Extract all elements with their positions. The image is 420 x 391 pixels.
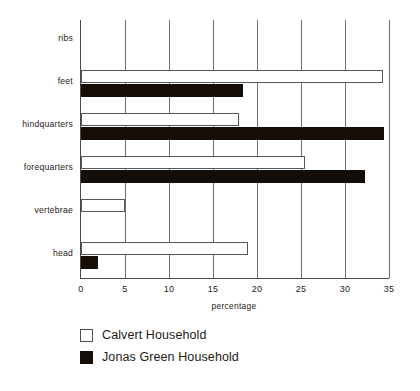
x-tick-label: 0	[78, 284, 83, 294]
category-label-feet: feet	[58, 76, 73, 86]
x-tick-label: 5	[122, 284, 127, 294]
bar-hindquarters-jonas-green	[81, 127, 384, 140]
x-axis-title: percentage	[80, 301, 388, 311]
x-tick-label: 15	[208, 284, 219, 294]
bar-head-jonas-green	[81, 256, 98, 269]
bar-feet-calvert	[81, 70, 383, 83]
chart-legend: Calvert Household Jonas Green Household	[80, 324, 239, 368]
category-row: ribs	[81, 20, 389, 63]
bar-forequarters-jonas-green	[81, 170, 365, 183]
bar-vertebrae-calvert	[81, 199, 125, 212]
bar-head-calvert	[81, 242, 248, 255]
x-tick-label: 25	[296, 284, 307, 294]
category-row: feet	[81, 63, 389, 106]
legend-label-jonas-green: Jonas Green Household	[102, 350, 239, 364]
legend-item-jonas-green: Jonas Green Household	[80, 346, 239, 368]
category-label-head: head	[53, 248, 73, 258]
category-row: vertebrae	[81, 192, 389, 235]
x-tick-label: 10	[164, 284, 175, 294]
bar-hindquarters-calvert	[81, 113, 239, 126]
category-label-forequarters: forequarters	[24, 162, 73, 172]
legend-swatch-open-square-icon	[80, 329, 93, 342]
bar-feet-jonas-green	[81, 84, 243, 97]
x-tick-label: 20	[252, 284, 263, 294]
legend-swatch-filled-square-icon	[80, 351, 93, 364]
bar-chart-figure: 05101520253035ribsfeethindquartersforequ…	[0, 0, 420, 391]
bar-forequarters-calvert	[81, 156, 305, 169]
x-tick-label: 30	[340, 284, 351, 294]
category-row: forequarters	[81, 149, 389, 192]
category-row: head	[81, 235, 389, 278]
x-tick-label: 35	[384, 284, 395, 294]
category-label-hindquarters: hindquarters	[22, 119, 73, 129]
legend-item-calvert: Calvert Household	[80, 324, 239, 346]
category-label-ribs: ribs	[58, 33, 73, 43]
legend-label-calvert: Calvert Household	[102, 328, 207, 342]
category-row: hindquarters	[81, 106, 389, 149]
gridline	[389, 20, 390, 278]
plot-area: 05101520253035ribsfeethindquartersforequ…	[80, 20, 389, 279]
category-label-vertebrae: vertebrae	[34, 205, 73, 215]
